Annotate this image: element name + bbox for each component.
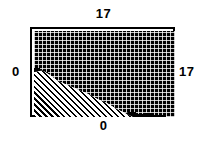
plot-frame [30, 27, 175, 117]
axis-label-bottom: 0 [0, 119, 207, 133]
figure-container: 17 0 17 0 [0, 0, 207, 141]
hatched-region-fill [34, 31, 175, 117]
axis-label-right: 17 [179, 65, 194, 79]
axis-label-top: 17 [0, 7, 207, 21]
plot-area [34, 31, 175, 117]
axis-label-left: 0 [12, 65, 20, 79]
hatched-region [34, 31, 175, 117]
